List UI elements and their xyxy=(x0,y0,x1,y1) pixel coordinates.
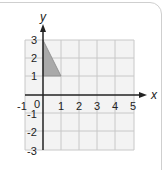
y-tick-neg3: -3 xyxy=(27,145,37,157)
x-axis-arrow-icon xyxy=(139,92,147,98)
x-tick-3: 3 xyxy=(94,100,100,112)
y-tick-neg1: -1 xyxy=(27,108,37,120)
y-tick-2: 2 xyxy=(31,52,37,64)
coordinate-plane: x y -1 0 1 2 3 4 5 3 2 1 -1 -2 -3 xyxy=(0,0,166,170)
y-tick-neg2: -2 xyxy=(27,126,37,138)
x-tick-4: 4 xyxy=(112,100,118,112)
x-tick-1: 1 xyxy=(58,100,64,112)
x-tick-5: 5 xyxy=(130,100,136,112)
x-tick-neg1: -1 xyxy=(17,100,27,112)
y-tick-1: 1 xyxy=(31,70,37,82)
y-axis-label: y xyxy=(39,10,47,24)
x-axis-label: x xyxy=(150,88,158,102)
x-tick-2: 2 xyxy=(76,100,82,112)
y-tick-3: 3 xyxy=(31,34,37,46)
y-axis-arrow-icon xyxy=(40,24,46,32)
